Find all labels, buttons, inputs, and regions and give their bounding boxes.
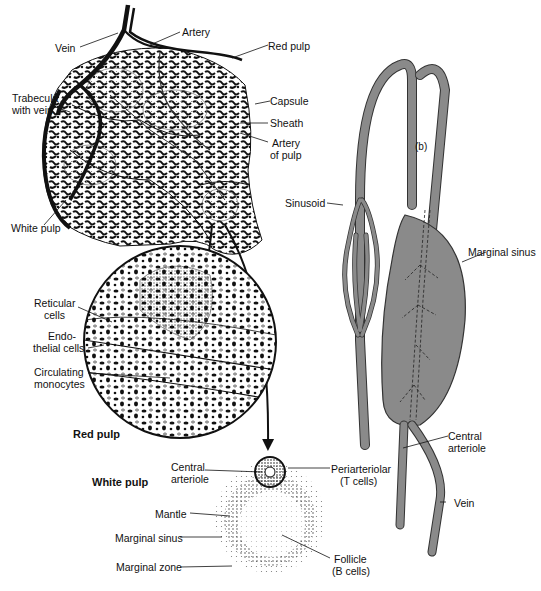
label-central-arteriole-line2: arteriole bbox=[171, 473, 209, 485]
label-marginal-sinus: Marginal sinus bbox=[115, 532, 183, 544]
label-marginal-sinus-b: Marginal sinus bbox=[468, 246, 536, 258]
label-endothelial-cells-line2: thelial cells bbox=[33, 342, 84, 354]
label-central-arteriole: Central bbox=[171, 461, 205, 473]
label-artery-of-pulp-line2: of pulp bbox=[270, 149, 302, 161]
label-central-arteriole-b-line2: arteriole bbox=[448, 442, 486, 454]
marginal-sinus-body bbox=[382, 215, 466, 426]
red-pulp-title: Red pulp bbox=[73, 428, 120, 440]
label-reticular-cells: Reticular bbox=[34, 297, 75, 309]
label-artery: Artery bbox=[182, 26, 210, 38]
label-sheath: Sheath bbox=[270, 117, 303, 129]
panel-b-tag: (b) bbox=[415, 141, 427, 152]
label-artery-of-pulp: Artery bbox=[272, 137, 300, 149]
label-vein-b: Vein bbox=[454, 497, 474, 509]
white-pulp-section bbox=[215, 457, 325, 573]
label-circulating-monocytes: Circulating bbox=[34, 366, 84, 378]
label-white-pulp: White pulp bbox=[11, 222, 61, 234]
label-follicle-line2: (B cells) bbox=[332, 565, 370, 577]
label-reticular-cells-line2: cells bbox=[44, 309, 65, 321]
label-periarteriolar-line2: (T cells) bbox=[340, 475, 377, 487]
label-trabecula: Trabecula bbox=[12, 92, 58, 104]
label-vein: Vein bbox=[55, 42, 75, 54]
panel-b-outflow bbox=[400, 425, 441, 552]
red-pulp-circle bbox=[80, 245, 280, 445]
central-arteriole bbox=[265, 467, 275, 477]
label-sinusoid: Sinusoid bbox=[285, 197, 325, 209]
label-follicle: Follicle bbox=[334, 553, 367, 565]
label-periarteriolar: Periarteriolar bbox=[331, 463, 391, 475]
label-capsule: Capsule bbox=[270, 95, 309, 107]
label-circulating-monocytes-line2: monocytes bbox=[34, 378, 85, 390]
spleen-section bbox=[43, 5, 262, 254]
label-trabecula-line2: with vein bbox=[12, 104, 53, 116]
label-central-arteriole-b: Central bbox=[448, 430, 482, 442]
label-endothelial-cells: Endo- bbox=[48, 330, 76, 342]
label-red-pulp: Red pulp bbox=[268, 40, 310, 52]
label-mantle: Mantle bbox=[155, 508, 187, 520]
white-pulp-title: White pulp bbox=[92, 476, 148, 488]
label-marginal-zone: Marginal zone bbox=[116, 561, 182, 573]
